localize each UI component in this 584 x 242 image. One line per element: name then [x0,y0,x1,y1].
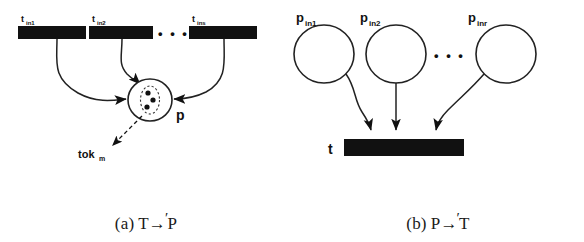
arc-t-in2-to-place [121,39,140,84]
transition-label-t-ins: t [192,14,195,24]
caption-right-a: P [168,214,178,233]
caption-arrow-b: → [440,214,457,233]
transition-bar-t [344,139,464,156]
caption-index-a: (a) [115,214,134,233]
petri-net-diagram-p-to-t: p in1 p in2 • • • p inr t [292,0,584,190]
token-annotation-arrow [113,116,142,145]
figure-panel-b: p in1 p in2 • • • p inr t (b)P→′T [292,0,584,242]
transition-sublabel-t-in1: in1 [26,20,35,26]
place-sublabel-p-in2: in2 [369,19,381,28]
figure-root: t in1 t in2 • • • t ins [0,0,584,242]
token-dot [145,90,150,95]
caption-arrow-a: → [149,214,166,233]
arc-p-inr-to-transition [436,74,484,130]
place-node-p-in1 [294,25,354,83]
token-dot [144,104,149,109]
place-node-p-in2 [366,25,426,83]
arc-t-ins-to-place [174,39,224,99]
arc-p-in1-to-transition [346,74,371,130]
place-sublabel-p-in1: in1 [305,19,317,28]
transition-label-t-in1: t [21,14,24,24]
token-annotation-label: tok [78,148,95,160]
token-annotation-sublabel: m [99,155,105,162]
transition-label-t: t [328,141,333,157]
transition-sublabel-t-ins: ins [197,20,206,26]
caption-right-b: T [459,214,470,233]
place-node-p-inr [476,25,536,83]
arc-t-in1-to-place [57,39,126,101]
caption-left-a: T [138,214,149,233]
place-sublabel-p-inr: inr [477,19,487,28]
token-dot [150,97,155,102]
place-label-p-in1: p [296,10,304,25]
ellipsis-transitions: • • • [158,26,189,41]
caption-left-b: P [431,214,441,233]
figure-panel-a: t in1 t in2 • • • t ins [0,0,292,242]
caption-index-b: (b) [406,214,426,233]
caption-panel-b: (b)P→′T [292,210,584,234]
place-label-p-in2: p [360,10,368,25]
place-label-p-inr: p [468,10,476,25]
petri-net-diagram-t-to-p: t in1 t in2 • • • t ins [0,0,292,190]
transition-bar-t-in2 [89,26,153,39]
transition-label-t-in2: t [92,14,95,24]
ellipsis-places: • • • [434,48,465,63]
place-node-p [128,79,172,121]
transition-bar-t-ins [189,26,257,39]
caption-panel-a: (a)T→′P [0,210,292,234]
transition-bar-t-in1 [18,26,86,39]
place-label-p: p [176,107,185,123]
transition-sublabel-t-in2: in2 [97,20,106,26]
